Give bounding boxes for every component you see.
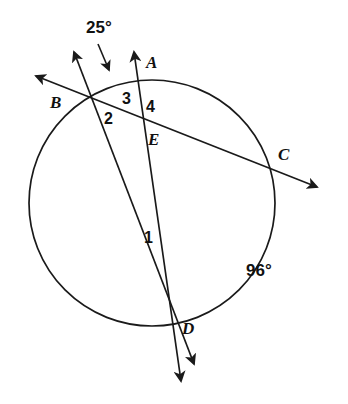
point-label-d: D xyxy=(182,320,194,337)
geometry-figure: A B C D E 1 2 3 4 25° 96° xyxy=(0,0,348,404)
geometry-canvas xyxy=(0,0,348,404)
circle-outline xyxy=(29,80,275,326)
point-label-c: C xyxy=(278,146,289,163)
point-label-a: A xyxy=(146,54,157,71)
secant-line-ad xyxy=(134,52,181,381)
arc-measure-25-pointer xyxy=(98,44,109,70)
arc-measure-25-label: 25° xyxy=(86,19,112,36)
angle-label-2: 2 xyxy=(104,111,113,127)
point-label-e: E xyxy=(148,131,159,148)
point-label-b: B xyxy=(50,94,61,111)
secant-line-bd xyxy=(74,52,194,364)
angle-label-1: 1 xyxy=(144,230,153,246)
angle-label-4: 4 xyxy=(146,99,155,115)
angle-label-3: 3 xyxy=(122,91,131,107)
secant-line-bc xyxy=(36,76,317,187)
arc-measure-96-label: 96° xyxy=(246,262,272,279)
